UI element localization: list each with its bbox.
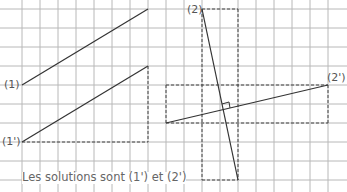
label-line-1: (1) <box>4 79 20 90</box>
label-line-2: (2) <box>187 4 203 15</box>
diagram-canvas: (1) (1') (2) (2') Les solutions sont (1'… <box>0 0 347 192</box>
grid-and-lines <box>0 0 347 192</box>
grid <box>0 0 347 192</box>
solution-caption: Les solutions sont (1') et (2') <box>22 172 186 184</box>
label-line-1-prime: (1') <box>2 136 21 147</box>
label-line-2-prime: (2') <box>327 72 346 83</box>
